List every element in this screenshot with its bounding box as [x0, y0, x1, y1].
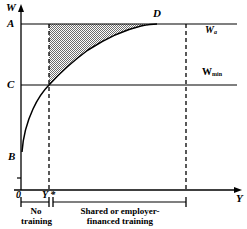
y-axis-label: W: [6, 2, 16, 13]
bracket-label-no-training-line1: No: [21, 207, 51, 216]
origin-label: 0: [16, 190, 21, 200]
y-axis-arrowhead: [18, 4, 24, 12]
y-tick-label-C: C: [7, 79, 14, 90]
line-label-wmin-subscript: min: [212, 71, 222, 77]
bracket-label-shared-training: Shared or employer- financed training: [55, 207, 185, 226]
point-label-D: D: [153, 8, 161, 19]
x-axis-label: Y: [236, 193, 243, 204]
bracket-label-no-training-line2: training: [21, 217, 51, 226]
y-tick-label-A: A: [7, 18, 14, 29]
line-label-wmin-base: W: [202, 66, 212, 77]
x-tick-label-ystar: Y *: [42, 190, 55, 200]
bracket-label-no-training: No training: [21, 207, 51, 226]
line-label-wa-base: W: [205, 24, 214, 35]
y-tick-label-B: B: [8, 151, 15, 162]
bracket-label-shared-training-line2: financed training: [55, 217, 185, 226]
line-label-wa: Wa: [205, 25, 217, 35]
figure-wage-training-diagram: W Y 0 A C B D Y * Wa Wmin No training Sh…: [0, 0, 247, 229]
line-label-wmin: Wmin: [202, 67, 222, 77]
shaded-area-training-cost: [49, 24, 157, 85]
line-label-wa-subscript: a: [214, 29, 217, 35]
bracket-label-shared-training-line1: Shared or employer-: [55, 207, 185, 216]
